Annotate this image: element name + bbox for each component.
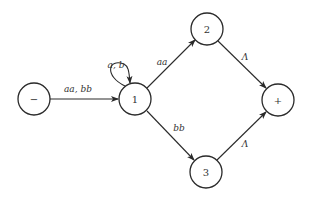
transition-graph: aa, bb a, b aa bb Λ Λ − 1 2 3 + [0,0,309,198]
edge-1-to-2: aa [147,40,195,88]
node-start-label: − [30,94,38,105]
node-1: 1 [119,83,151,115]
edge-2-to-final: Λ [218,41,266,88]
node-final: + [262,84,294,116]
edge-loop-1: a, b [108,60,130,86]
node-2-label: 2 [204,24,210,35]
edge-3-to-final: Λ [217,112,266,160]
node-start: − [18,83,50,115]
node-final-label: + [274,95,282,106]
edge-label-2-final: Λ [241,52,249,62]
node-1-label: 1 [132,94,138,105]
edge-label-start-1: aa, bb [64,84,92,94]
edge-label-3-final: Λ [241,139,249,149]
node-3: 3 [190,156,222,188]
edge-1-to-3: bb [147,111,194,160]
edge-label-1-2: aa [157,57,168,67]
edge-start-to-1: aa, bb [50,84,118,99]
node-2: 2 [191,13,223,45]
edge-label-loop-1: a, b [108,60,125,70]
edge-label-1-3: bb [173,123,185,133]
node-3-label: 3 [203,167,209,178]
